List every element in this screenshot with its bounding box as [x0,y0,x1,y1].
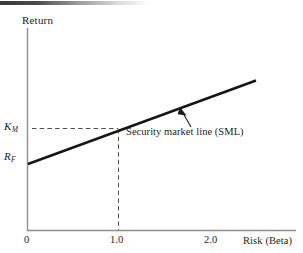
x-axis-title: Risk (Beta) [243,235,292,246]
rf-subscript: F [11,155,16,164]
security-market-line [28,81,256,165]
y-value-label-km: KM [4,120,18,132]
chart-figure: Return Risk (Beta) 0 1.0 2.0 KM RF Secur… [0,0,303,253]
security-market-line-label: Security market line (SML) [126,126,244,137]
km-base: K [4,120,11,132]
y-axis-title: Return [22,14,53,26]
x-tick-label-1: 1.0 [110,234,123,245]
x-tick-label-0: 0 [24,234,29,245]
sml-annotation-arrow [178,107,191,127]
y-value-label-rf: RF [4,150,15,162]
km-subscript: M [12,125,18,134]
rf-base: R [4,150,11,162]
x-tick-label-2: 2.0 [204,234,217,245]
